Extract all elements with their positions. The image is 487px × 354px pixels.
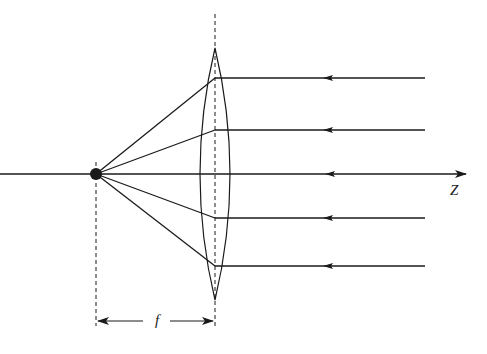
thin-lens-diagram: Z f	[0, 0, 487, 354]
converging-ray-4	[96, 174, 215, 266]
converging-ray-3	[96, 174, 215, 218]
focal-point-dot	[90, 168, 102, 180]
converging-ray-2	[96, 130, 215, 174]
optics-figure	[0, 0, 487, 354]
axis-label-z: Z	[450, 182, 458, 199]
converging-ray-1	[96, 78, 215, 174]
focal-length-label: f	[155, 312, 159, 329]
